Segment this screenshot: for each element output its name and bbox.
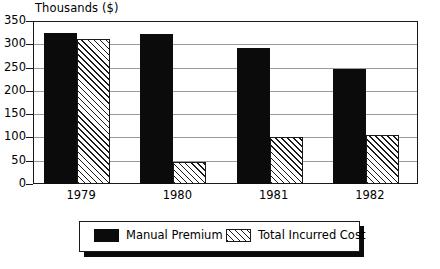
bar-1980-manual bbox=[140, 34, 173, 184]
bar-1981-manual bbox=[237, 48, 270, 184]
y-axis-tick bbox=[26, 44, 33, 45]
bar-1979-incurred bbox=[77, 39, 110, 184]
y-axis-label: 350 bbox=[0, 15, 26, 27]
legend-label-total-incurred-cost: Total Incurred Cost bbox=[258, 229, 365, 242]
legend-swatch-total-incurred-cost bbox=[226, 229, 251, 242]
bar-1982-incurred bbox=[366, 135, 399, 184]
y-axis-label: 250 bbox=[0, 62, 26, 74]
y-axis-tick bbox=[26, 161, 33, 162]
y-axis-title: Thousands ($) bbox=[35, 1, 119, 15]
y-axis-label: 150 bbox=[0, 108, 26, 120]
y-axis-tick bbox=[26, 68, 33, 69]
x-axis-label-1979: 1979 bbox=[51, 188, 111, 202]
legend-item-manual-premium: Manual Premium bbox=[94, 229, 223, 242]
legend-label-manual-premium: Manual Premium bbox=[126, 229, 223, 242]
bar-chart: Thousands ($) 050100150200250300350 1979… bbox=[0, 0, 440, 269]
y-axis-tick bbox=[26, 184, 33, 185]
x-axis-label-1981: 1981 bbox=[244, 188, 304, 202]
y-axis-label: 200 bbox=[0, 85, 26, 97]
bar-1979-manual bbox=[44, 33, 77, 184]
y-axis-label: 50 bbox=[0, 155, 26, 167]
legend: Manual Premium Total Incurred Cost bbox=[79, 221, 360, 252]
legend-swatch-manual-premium bbox=[94, 229, 119, 242]
y-axis-label: 100 bbox=[0, 131, 26, 143]
y-axis-tick bbox=[26, 137, 33, 138]
bar-1980-incurred bbox=[173, 162, 206, 184]
x-axis-label-1980: 1980 bbox=[147, 188, 207, 202]
y-axis-label: 0 bbox=[0, 178, 26, 190]
y-axis-tick bbox=[26, 91, 33, 92]
bar-1981-incurred bbox=[270, 137, 303, 184]
legend-item-total-incurred-cost: Total Incurred Cost bbox=[226, 229, 365, 242]
y-axis-tick bbox=[26, 114, 33, 115]
bar-1982-manual bbox=[333, 69, 366, 184]
y-axis-tick bbox=[26, 21, 33, 22]
x-axis-label-1982: 1982 bbox=[340, 188, 400, 202]
y-axis-label: 300 bbox=[0, 38, 26, 50]
